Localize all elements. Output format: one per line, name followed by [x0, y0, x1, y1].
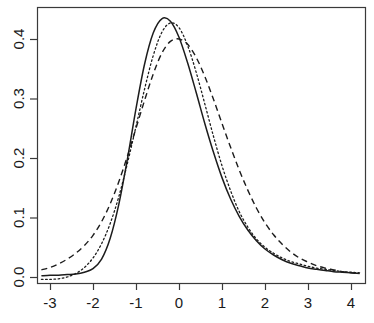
y-axis-tick-label: 0.4: [10, 29, 27, 50]
x-axis-tick-label: 3: [304, 294, 312, 311]
y-axis-tick-label: 0.0: [10, 267, 27, 288]
x-axis-tick-label: 1: [218, 294, 226, 311]
density-plot-figure: 0.00.10.20.30.4-3-2-101234: [0, 0, 374, 323]
x-axis-tick-label: -2: [86, 294, 99, 311]
x-axis-tick-label: 4: [347, 294, 355, 311]
y-axis-tick-label: 0.2: [10, 148, 27, 169]
solid-curve: [41, 18, 359, 276]
x-axis-tick-label: 0: [175, 294, 183, 311]
dashed-curve: [41, 39, 359, 274]
x-axis-tick-label: -1: [129, 294, 142, 311]
y-axis-tick-label: 0.3: [10, 88, 27, 109]
dotted-curve: [41, 23, 359, 280]
x-axis-tick-label: -3: [43, 294, 56, 311]
x-axis-tick-label: 2: [261, 294, 269, 311]
plot-canvas: 0.00.10.20.30.4-3-2-101234: [0, 0, 374, 323]
y-axis-tick-label: 0.1: [10, 207, 27, 228]
